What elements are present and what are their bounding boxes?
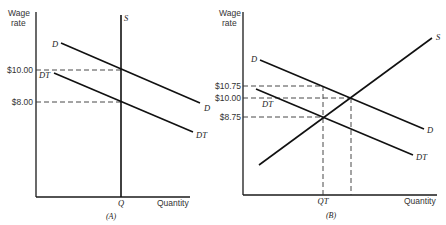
demand-tax-curve-b <box>256 89 413 155</box>
supply-label-b: S <box>436 32 441 42</box>
y-axis-label-b-line2: rate <box>222 18 237 28</box>
x-tick-qt-b: QT <box>318 196 330 206</box>
demand-label-end-b: D <box>426 125 434 135</box>
demand-label-start-a: D <box>51 39 59 49</box>
x-axis-label-b: Quantity <box>404 196 436 206</box>
y-tick-8-75-b: $8.75 <box>220 112 242 122</box>
demand-curve-a <box>61 43 200 103</box>
supply-label-a: S <box>124 13 129 23</box>
y-axis-label-a-line1: Wage <box>8 8 30 18</box>
demand-tax-label-start-a: DT <box>38 70 51 80</box>
demand-tax-label-end-a: DT <box>195 130 208 140</box>
y-tick-10-75-b: $10.75 <box>215 81 241 91</box>
y-tick-10-00-b: $10.00 <box>215 93 241 103</box>
demand-label-end-a: D <box>203 103 211 113</box>
y-tick-8-00-a: $8.00 <box>12 97 34 107</box>
x-axis-label-a: Quantity <box>157 198 189 208</box>
diagram-canvas: Wage rate $10.00 $8.00 S D D DT DT Q Qua… <box>0 0 446 225</box>
caption-b: (B) <box>326 211 337 220</box>
demand-tax-label-start-b: DT <box>261 99 274 109</box>
panel-b: Wage rate $10.75 $10.00 $8.75 S D D DT D… <box>215 8 441 220</box>
caption-a: (A) <box>106 212 117 221</box>
demand-tax-curve-a <box>54 73 193 132</box>
y-tick-10-00-a: $10.00 <box>7 65 33 75</box>
y-axis-label-b-line1: Wage <box>219 8 241 18</box>
demand-tax-label-end-b: DT <box>415 152 428 162</box>
x-tick-q-a: Q <box>118 198 124 208</box>
panel-a: Wage rate $10.00 $8.00 S D D DT DT Q Qua… <box>7 8 211 221</box>
demand-label-start-b: D <box>250 54 258 64</box>
demand-curve-b <box>260 60 424 129</box>
y-axis-label-a-line2: rate <box>11 18 26 28</box>
